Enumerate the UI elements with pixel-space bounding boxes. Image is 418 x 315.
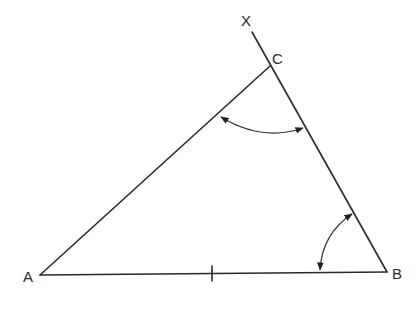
label-x: X	[241, 12, 251, 29]
angle-arc-c	[221, 117, 303, 133]
angle-arc-b	[320, 214, 352, 270]
segment-ac	[40, 66, 270, 275]
ray-bx	[252, 32, 387, 272]
label-a: A	[23, 268, 33, 285]
label-b: B	[392, 265, 402, 282]
triangle-diagram: A B C X	[0, 0, 418, 315]
segment-ab	[40, 272, 387, 275]
label-c: C	[272, 50, 283, 67]
